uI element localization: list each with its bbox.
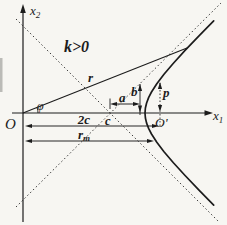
x2-axis-label: x2 xyxy=(29,3,41,20)
radius-label: r xyxy=(88,70,94,85)
hyperbola-diagram-canvas: x2 x1 k>0 O O' c r φ a b p 2c rm xyxy=(0,0,227,225)
x1-axis-label-sub: 1 xyxy=(219,115,224,125)
hyperbola-orbit-figure: x2 x1 k>0 O O' c r φ a b p 2c rm xyxy=(0,0,227,225)
rmin-label-sub: m xyxy=(83,133,90,143)
x2-axis-arrowhead-icon xyxy=(20,4,26,13)
b-measure-bottom-arrowhead-icon xyxy=(138,106,142,113)
k-positive-annotation: k>0 xyxy=(64,38,89,55)
p-label: p xyxy=(162,85,170,100)
p-measure-bottom-arrowhead-icon xyxy=(158,105,162,112)
rmin-left-arrowhead-icon xyxy=(25,139,32,143)
asymptote-descending-line xyxy=(16,19,218,221)
angle-phi-label: φ xyxy=(37,99,44,113)
rmin-label: rm xyxy=(78,127,90,143)
a-measure-left-arrowhead-icon xyxy=(110,102,117,106)
center-label: c xyxy=(105,114,111,128)
asymptote-ascending-line xyxy=(16,3,221,207)
focal-distance-label: 2c xyxy=(77,112,91,127)
scan-smudge xyxy=(0,58,3,92)
x2-axis-label-sub: 2 xyxy=(36,10,41,20)
a-measure-right-arrowhead-icon xyxy=(133,102,140,106)
radius-vector-line xyxy=(23,48,187,113)
b-label: b xyxy=(131,84,138,99)
x1-axis-arrowhead-icon xyxy=(205,110,214,115)
focal-distance-left-arrowhead-icon xyxy=(25,124,32,128)
a-label: a xyxy=(119,90,126,105)
p-measure-top-arrowhead-icon xyxy=(158,82,162,89)
second-focus-label: O' xyxy=(155,115,169,130)
rmin-right-arrowhead-icon xyxy=(147,139,154,143)
origin-label: O xyxy=(5,116,16,132)
x1-axis-label: x1 xyxy=(212,108,223,125)
